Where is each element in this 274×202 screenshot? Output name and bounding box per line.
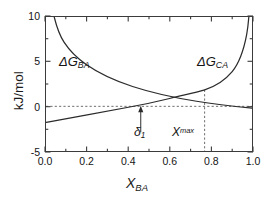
annotation-delta1-base: δ	[134, 125, 141, 139]
curve-label-delta-g-ba: ΔGBA	[59, 55, 90, 70]
xtick-label-06: 0.6	[162, 156, 177, 167]
xtick-label-1: 1.0	[246, 156, 261, 167]
x-axis-title-base: X	[126, 175, 135, 191]
annotation-label-xmax: Xmax	[172, 126, 194, 138]
figure-thermodynamic-free-energy-chart: 10 5 0 -5 0.0 0.2 0.4 0.6 0.8 1.0	[0, 0, 274, 202]
ytick-label-minus5: -5	[14, 147, 40, 158]
xtick-label-08: 0.8	[204, 156, 219, 167]
annotation-xmax-sup: max	[180, 126, 194, 135]
xtick-label-02: 0.2	[79, 156, 94, 167]
annotation-label-delta1: δ1	[134, 126, 145, 140]
curves-svg	[46, 17, 252, 151]
xtick-label-0: 0.0	[38, 156, 53, 167]
curve-label-delta-g-ba-sub: BA	[78, 60, 90, 70]
xtick-label-04: 0.4	[121, 156, 136, 167]
ytick-label-10: 10	[14, 11, 40, 22]
x-axis-title: XBA	[0, 176, 274, 192]
plot-area	[45, 16, 253, 152]
x-axis-title-sub: BA	[135, 182, 148, 193]
curve-label-delta-g-ca-sub: CA	[216, 60, 228, 70]
curve-label-delta-g-ca-base: ΔG	[197, 54, 216, 69]
curve-label-delta-g-ba-base: ΔG	[59, 54, 78, 69]
y-axis-title: kJ/mol	[12, 41, 26, 141]
annotation-delta1-sub: 1	[141, 131, 146, 140]
annotation-xmax-base: X	[172, 125, 180, 139]
curve-label-delta-g-ca: ΔGCA	[197, 55, 228, 70]
